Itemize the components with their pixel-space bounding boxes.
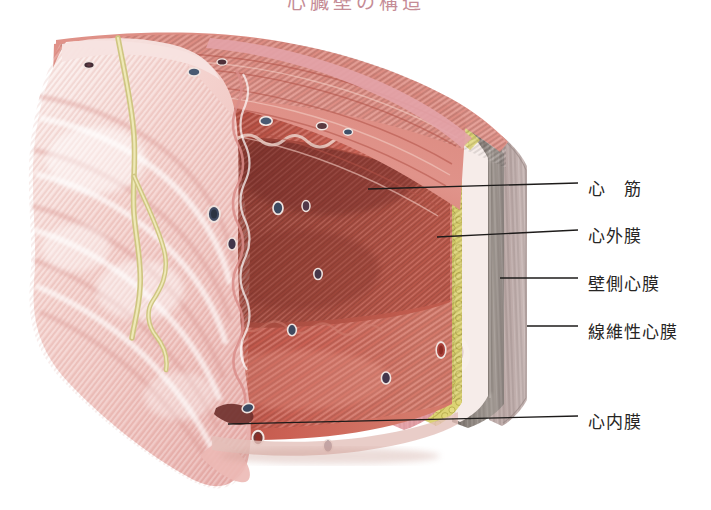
label-endocardium: 心内膜 (588, 408, 642, 433)
figure-canvas: 心臓壁の構造 (0, 0, 711, 510)
label-parietal-pericardium: 壁側心膜 (588, 270, 660, 295)
label-epicardium: 心外膜 (588, 222, 642, 247)
label-fibrous-pericardium: 線維性心膜 (588, 318, 678, 343)
label-myocardium: 心 筋 (588, 175, 642, 200)
label-layer: 心 筋 心外膜 壁側心膜 線維性心膜 心内膜 (0, 0, 711, 510)
